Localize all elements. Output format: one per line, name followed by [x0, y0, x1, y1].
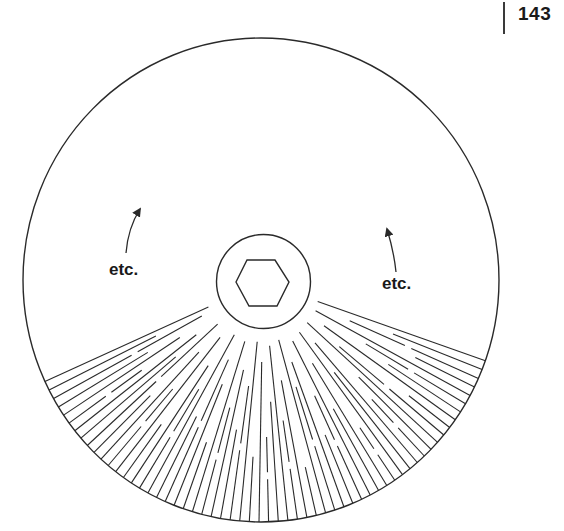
radial-line [221, 430, 237, 519]
radial-line [101, 352, 199, 459]
radial-line [157, 417, 197, 498]
radial-line [316, 311, 471, 396]
radial-line [165, 427, 198, 501]
radial-line [299, 332, 402, 474]
radial-line [268, 479, 269, 522]
radial-line [290, 469, 297, 519]
radial-line [241, 386, 249, 443]
radial-line [123, 424, 161, 477]
radial-line [279, 340, 326, 513]
radial-line [259, 362, 262, 522]
radial-line [201, 360, 228, 421]
etc-label-left: etc. [109, 261, 138, 278]
radial-line [318, 301, 486, 360]
radial-line [398, 428, 424, 456]
radial-line [138, 316, 202, 352]
radial-line [267, 437, 268, 472]
radial-line [393, 334, 482, 370]
etc-label-right: etc. [382, 275, 411, 292]
radial-line [218, 408, 230, 453]
radial-line [315, 343, 417, 463]
radial-line [378, 455, 395, 481]
radial-line [230, 450, 240, 520]
radial-line [94, 396, 150, 453]
radial-line [81, 357, 176, 438]
radial-line [192, 341, 244, 511]
radial-line [49, 336, 156, 390]
radial-line [174, 389, 199, 431]
radial-line [324, 326, 455, 420]
radial-line [372, 399, 394, 422]
radial-line [75, 335, 197, 431]
hub-circle [217, 235, 311, 329]
radial-line [69, 396, 106, 423]
radial-line [334, 372, 410, 468]
left-arrow-icon [126, 209, 140, 253]
radial-line [211, 370, 243, 517]
right-arrow-icon [387, 229, 396, 272]
radial-line [366, 344, 408, 369]
radial-line [249, 457, 253, 522]
radial-line [359, 377, 431, 449]
radial-line [333, 409, 378, 491]
radial-line [350, 321, 405, 346]
radial-line [283, 421, 289, 462]
radial-line [161, 324, 217, 377]
radial-line [174, 384, 222, 505]
disk-diagram [0, 0, 564, 531]
radial-line [307, 323, 437, 443]
radial-line [411, 348, 478, 378]
radial-lines-fan [45, 301, 486, 522]
radial-line [388, 364, 460, 412]
radial-line [315, 446, 335, 510]
